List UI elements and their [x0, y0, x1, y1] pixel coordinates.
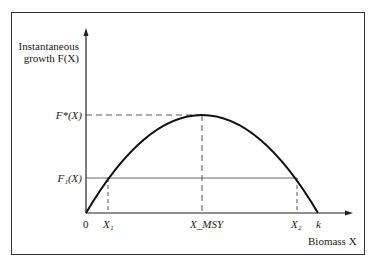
x2-label: X₂	[291, 218, 302, 230]
fstar-label: F*(X)	[42, 109, 82, 121]
k-label: k	[316, 218, 321, 230]
xmsy-label: X_MSY	[190, 218, 223, 230]
origin-label: 0	[83, 218, 89, 230]
f1-label: F₁(X)	[42, 172, 82, 184]
y-axis-arrow-icon	[84, 28, 89, 36]
x-axis-label: Biomass X	[308, 235, 357, 247]
x-axis-arrow-icon	[345, 211, 353, 216]
x1-label: X₁	[103, 218, 114, 230]
y-axis-label-line1: Instantaneous	[15, 40, 79, 52]
y-axis-label-line2: growth F(X)	[15, 52, 79, 64]
